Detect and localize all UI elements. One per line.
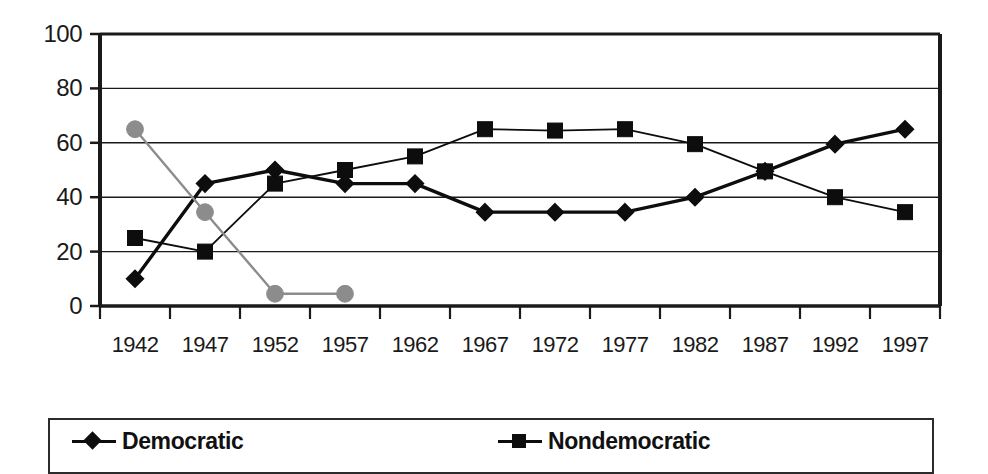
- data-point-diamond: [477, 204, 494, 221]
- data-point-circle: [337, 285, 354, 302]
- data-point-diamond: [827, 136, 844, 153]
- data-point-circle: [127, 121, 144, 138]
- y-axis-label-80: 80: [14, 76, 82, 100]
- legend-item-democratic[interactable]: Democratic: [72, 426, 243, 456]
- x-axis-label-1942: 1942: [112, 334, 159, 356]
- legend-item-nondemocratic[interactable]: Nondemocratic: [498, 426, 710, 456]
- x-axis-label-1997: 1997: [882, 334, 929, 356]
- data-point-diamond: [547, 204, 564, 221]
- data-point-diamond: [897, 121, 914, 138]
- data-point-square: [338, 163, 353, 178]
- x-tick-marks: [100, 306, 940, 319]
- gridlines: [100, 34, 940, 306]
- data-point-square: [408, 149, 423, 164]
- data-point-diamond: [687, 189, 704, 206]
- series-line: [135, 129, 905, 279]
- data-point-circle: [267, 285, 284, 302]
- data-point-square: [828, 190, 843, 205]
- series-line: [135, 129, 345, 294]
- x-axis-label-1967: 1967: [462, 334, 509, 356]
- data-point-square: [198, 244, 213, 259]
- data-point-square: [268, 176, 283, 191]
- data-point-square: [758, 164, 773, 179]
- legend-label-nondemocratic: Nondemocratic: [548, 428, 710, 455]
- axes: [100, 34, 940, 306]
- legend-label-democratic: Democratic: [122, 428, 243, 455]
- data-point-diamond: [407, 175, 424, 192]
- data-point-square: [548, 123, 563, 138]
- data-point-square: [128, 231, 143, 246]
- square-marker-icon: [498, 432, 542, 450]
- y-axis-label-100: 100: [14, 22, 82, 46]
- x-axis-label-1952: 1952: [252, 334, 299, 356]
- x-axis-label-1992: 1992: [812, 334, 859, 356]
- data-point-square: [478, 122, 493, 137]
- x-axis-label-1947: 1947: [182, 334, 229, 356]
- x-axis-label-1982: 1982: [672, 334, 719, 356]
- series-unlabeled-2: [127, 121, 354, 302]
- x-axis-label-1972: 1972: [532, 334, 579, 356]
- diamond-marker-icon: [72, 432, 116, 450]
- x-axis-label-1987: 1987: [742, 334, 789, 356]
- y-axis-label-40: 40: [14, 185, 82, 209]
- x-axis-label-1957: 1957: [322, 334, 369, 356]
- x-axis-label-1962: 1962: [392, 334, 439, 356]
- chart-legend: Democratic Nondemocratic: [48, 418, 934, 474]
- data-point-circle: [197, 204, 214, 221]
- data-point-square: [618, 122, 633, 137]
- y-axis-label-20: 20: [14, 240, 82, 264]
- series-line: [135, 129, 905, 251]
- y-axis-label-0: 0: [14, 294, 82, 318]
- y-axis-label-60: 60: [14, 131, 82, 155]
- series-democratic: [127, 121, 914, 288]
- x-axis-label-1977: 1977: [602, 334, 649, 356]
- data-point-square: [898, 205, 913, 220]
- line-chart-figure: 020406080100 194219471952195719621967197…: [0, 0, 988, 400]
- data-point-diamond: [617, 204, 634, 221]
- data-point-square: [688, 137, 703, 152]
